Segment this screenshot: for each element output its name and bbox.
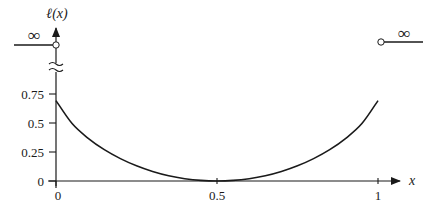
y-tick-label-075: 0.75 [21, 87, 44, 102]
chart-canvas: 0 0.25 0.5 0.75 0 0.5 1 ℓ(x) x ∞ ∞ [0, 0, 434, 209]
x-tick-label-05: 0.5 [209, 188, 225, 203]
y-tick-label-05: 0.5 [28, 116, 44, 131]
x-tick-label-0: 0 [55, 188, 62, 203]
y-tick-label-0: 0 [38, 174, 45, 189]
inf-label-right: ∞ [398, 24, 410, 43]
x-tick-label-1: 1 [375, 188, 382, 203]
y-axis-label: ℓ(x) [46, 6, 68, 22]
x-ticks [56, 178, 378, 186]
open-circle-left [53, 42, 59, 48]
x-axis-label: x [408, 173, 416, 188]
axis-break-icon [49, 63, 63, 72]
loss-curve [56, 101, 378, 181]
open-circle-right [378, 39, 384, 45]
y-ticks [49, 94, 56, 181]
inf-label-left: ∞ [28, 26, 40, 45]
y-tick-label-025: 0.25 [21, 145, 44, 160]
